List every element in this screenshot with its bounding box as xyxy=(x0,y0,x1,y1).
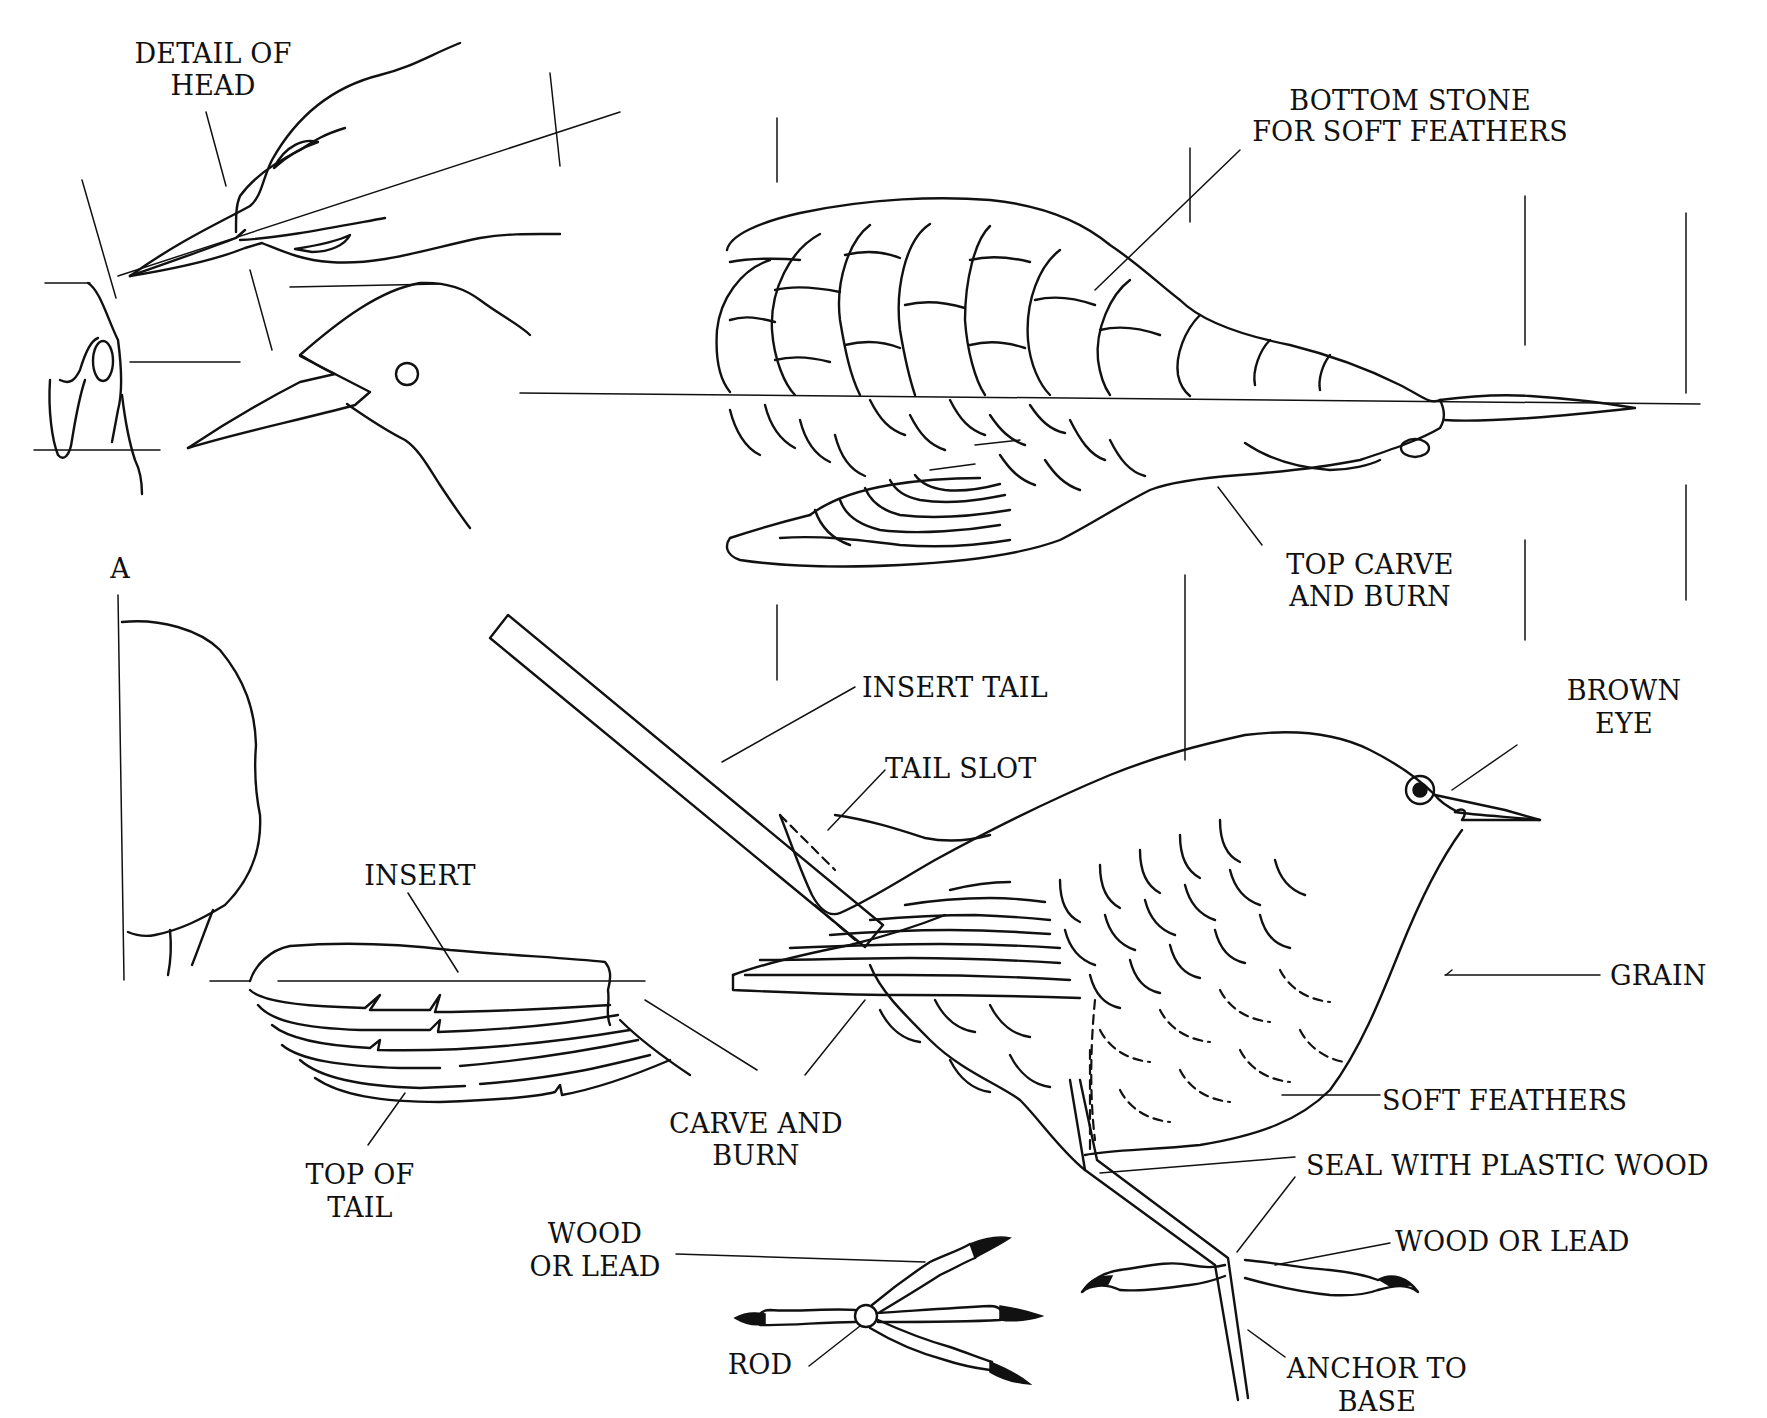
label-top-carve-and-burn: TOP CARVE xyxy=(1286,549,1453,580)
label-wood-or-lead-left-line2: OR LEAD xyxy=(529,1251,660,1282)
label-detail-of-head: DETAIL OF xyxy=(134,38,291,69)
label-top-carve-and-burn-line2: AND BURN xyxy=(1288,581,1451,612)
label-anchor-to-base: ANCHOR TO xyxy=(1286,1353,1467,1384)
label-bottom-stone: BOTTOM STONE xyxy=(1289,85,1531,116)
label-grain: GRAIN xyxy=(1610,960,1707,991)
label-anchor-to-base-line2: BASE xyxy=(1338,1386,1416,1417)
label-top-of-tail: TOP OF xyxy=(306,1159,415,1190)
label-detail-of-head-line2: HEAD xyxy=(170,70,255,101)
label-insert-tail: INSERT TAIL xyxy=(862,672,1048,703)
side-view-bird xyxy=(733,732,1600,1400)
label-section-a: A xyxy=(109,553,130,584)
insert-tail-rod xyxy=(490,615,885,947)
label-top-of-tail-line2: TAIL xyxy=(327,1192,392,1223)
label-bottom-stone-line2: FOR SOFT FEATHERS xyxy=(1252,116,1568,147)
label-insert: INSERT xyxy=(364,860,476,891)
label-rod: ROD xyxy=(728,1349,793,1380)
section-a xyxy=(118,595,260,980)
bottom-view-body xyxy=(717,118,1686,760)
labels: DETAIL OF HEAD BOTTOM STONE FOR SOFT FEA… xyxy=(109,38,1709,1417)
label-carve-and-burn-line2: BURN xyxy=(712,1140,799,1171)
label-wood-or-lead-right: WOOD OR LEAD xyxy=(1395,1226,1629,1257)
label-seal-with-plastic-wood: SEAL WITH PLASTIC WOOD xyxy=(1306,1150,1709,1181)
label-soft-feathers: SOFT FEATHERS xyxy=(1382,1085,1627,1116)
label-brown-eye: BROWN xyxy=(1567,675,1682,706)
label-tail-slot: TAIL SLOT xyxy=(885,753,1037,784)
label-wood-or-lead-left: WOOD xyxy=(548,1218,642,1249)
bird-carving-diagram: DETAIL OF HEAD BOTTOM STONE FOR SOFT FEA… xyxy=(0,0,1767,1418)
head-detail-top-view xyxy=(82,43,620,298)
label-carve-and-burn: CARVE AND xyxy=(669,1108,843,1139)
label-brown-eye-line2: EYE xyxy=(1595,708,1653,739)
